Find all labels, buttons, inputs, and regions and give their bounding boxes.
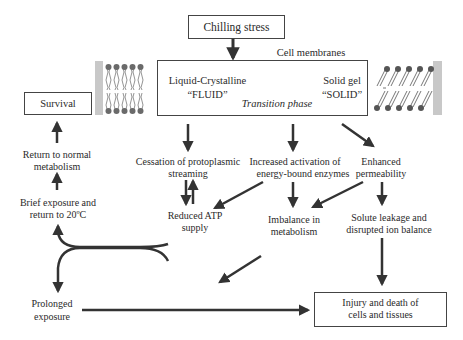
reduced-atp-line2: supply xyxy=(160,222,230,235)
survival-label: Survival xyxy=(25,98,91,111)
arrow-imbalance-down xyxy=(220,256,261,282)
membrane-phase-box: Liquid-Crystalline “FLUID” Transition ph… xyxy=(157,60,368,116)
injury-line1: Injury and death of xyxy=(315,297,446,310)
prolonged-exposure-line2: exposure xyxy=(22,311,82,324)
solute-leakage-line1: Solute leakage and xyxy=(336,212,442,225)
imbalance-line2: metabolism xyxy=(258,226,330,239)
chilling-stress-box: Chilling stress xyxy=(188,15,285,39)
arrow-enhanced-to-imbalance xyxy=(313,182,363,207)
arrow-fork-to-brief xyxy=(58,226,168,247)
lipid-bilayer-fluid-icon xyxy=(95,61,144,115)
prolonged-exposure-line1: Prolonged xyxy=(22,298,82,311)
enhanced-permeability-line2: permeability xyxy=(350,168,412,181)
arrow-increased-to-reduced xyxy=(215,182,263,208)
solid-label: “SOLID” xyxy=(316,89,368,102)
cell-membranes-label: Cell membranes xyxy=(266,47,356,60)
survival-box: Survival xyxy=(24,92,92,115)
return-normal-line2: metabolism xyxy=(12,161,102,174)
brief-exposure-line1: Brief exposure and xyxy=(6,197,110,210)
cessation-line1: Cessation of protoplasmic xyxy=(126,156,250,169)
increased-activation-line2: energy-bound enzymes xyxy=(248,168,358,181)
solid-gel-label: Solid gel xyxy=(316,75,368,88)
arrow-fork-to-prolonged xyxy=(58,248,168,291)
liquid-crystalline-label: Liquid-Crystalline xyxy=(160,75,255,88)
imbalance-line1: Imbalance in xyxy=(258,214,330,227)
chilling-stress-label: Chilling stress xyxy=(189,21,284,34)
transition-phase-label: Transition phase xyxy=(236,98,318,111)
arrow-membrane-to-enhanced xyxy=(342,124,373,146)
solute-leakage-line2: disrupted ion balance xyxy=(336,224,442,237)
chilling-stress-diagram: Chilling stress Cell membranes Liquid-Cr… xyxy=(0,0,463,340)
injury-death-box: Injury and death of cells and tissues xyxy=(314,292,447,327)
increased-activation-line1: Increased activation of xyxy=(240,156,350,169)
brief-exposure-line2: return to 20ºC xyxy=(6,209,110,222)
cessation-line2: streaming xyxy=(126,168,250,181)
reduced-atp-line1: Reduced ATP xyxy=(160,210,230,223)
injury-line2: cells and tissues xyxy=(315,309,446,322)
return-normal-line1: Return to normal xyxy=(12,149,102,162)
enhanced-permeability-line1: Enhanced xyxy=(350,156,412,169)
